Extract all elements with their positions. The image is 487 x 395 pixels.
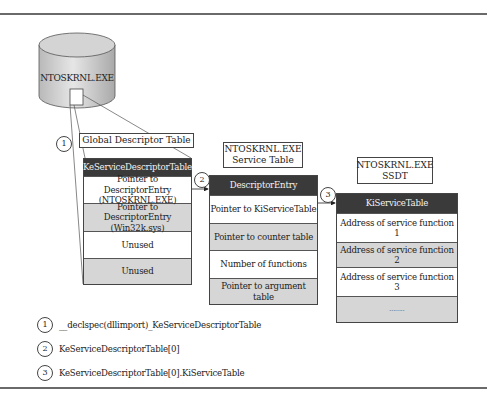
legend-text: __declspec(dllimport)_KeServiceDescripto… xyxy=(59,320,261,330)
legend-marker: 1 xyxy=(37,317,53,333)
marker-1: 1 xyxy=(56,136,72,152)
ki-service-table: KiServiceTable Address of service functi… xyxy=(336,193,458,323)
cylinder-label: NTOSKRNL.EXE xyxy=(38,73,116,83)
legend-marker: 3 xyxy=(37,365,53,381)
table-row: Pointer to argument table xyxy=(210,278,317,304)
table-row: Pointer to counter table xyxy=(210,223,317,250)
legend-text: KeServiceDescriptorTable[0] xyxy=(59,344,179,354)
marker-3: 3 xyxy=(320,187,336,203)
gdt-label: Global Descriptor Table xyxy=(79,133,194,148)
table-row: Pointer to DescriptorEntry (Win32k.sys) xyxy=(84,203,191,231)
table-row: Address of service function 1 xyxy=(337,213,457,242)
table-row: Number of functions xyxy=(210,250,317,278)
kservice-descriptor-table: KeServiceDescriptorTable Pointer to Desc… xyxy=(83,158,192,285)
table-row: ........ xyxy=(337,296,457,322)
legend-marker: 2 xyxy=(37,341,53,357)
marker-2: 2 xyxy=(194,172,210,188)
table-header: DescriptorEntry xyxy=(210,176,317,195)
gdt-label-text: Global Descriptor Table xyxy=(82,135,190,146)
legend-item: 3 KeServiceDescriptorTable[0].KiServiceT… xyxy=(37,365,244,381)
legend-item: 1 __declspec(dllimport)_KeServiceDescrip… xyxy=(37,317,261,333)
descriptor-entry-table: DescriptorEntry Pointer to KiServiceTabl… xyxy=(209,175,318,305)
table-header: KiServiceTable xyxy=(337,194,457,213)
table-row: Pointer to KiServiceTable xyxy=(210,195,317,223)
table-row: Unused xyxy=(84,231,191,258)
table-row: Address of service function 2 xyxy=(337,242,457,267)
legend-item: 2 KeServiceDescriptorTable[0] xyxy=(37,341,179,357)
table-row: Pointer to DescriptorEntry (NTOSKRNL.EXE… xyxy=(84,176,191,203)
table-row: Address of service function 3 xyxy=(337,267,457,296)
table-row: Unused xyxy=(84,258,191,284)
legend-text: KeServiceDescriptorTable[0].KiServiceTab… xyxy=(59,368,244,378)
service-table-label: NTOSKRNL.EXE Service Table xyxy=(223,142,303,168)
ssdt-label: NTOSKRNL.EXE SSDT xyxy=(357,157,433,184)
